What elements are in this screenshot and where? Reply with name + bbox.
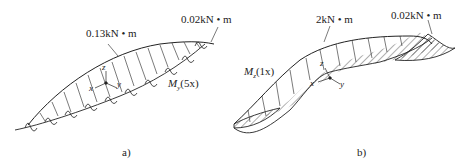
moment-argument: (5x) <box>180 77 198 89</box>
panel-a-axis-z: z <box>102 63 106 72</box>
panel-b-peak-value: 2kN • m <box>316 14 353 25</box>
panel-b-caption: b) <box>357 147 366 158</box>
panel-a-axis-y: y <box>117 80 121 89</box>
moment-symbol: M <box>168 77 177 89</box>
panel-b-axis-z: z <box>320 59 324 68</box>
panel-a-end-value: 0.02kN • m <box>181 14 232 25</box>
diagram-canvas <box>0 0 464 167</box>
panel-b-moment-label: Mz(1x) <box>244 66 274 80</box>
panel-a-peak-value: 0.13kN • m <box>86 28 137 39</box>
panel-a-moment-label: My(5x) <box>168 78 199 92</box>
panel-a-axis-x: x <box>89 84 93 93</box>
panel-b-axis-x: x <box>310 79 314 88</box>
moment-argument: (1x) <box>256 65 274 77</box>
panel-a-caption: a) <box>122 147 131 158</box>
moment-symbol: M <box>244 65 253 77</box>
panel-b-end-value: 0.02kN • m <box>391 10 442 21</box>
panel-b-axis-y: y <box>340 80 344 89</box>
